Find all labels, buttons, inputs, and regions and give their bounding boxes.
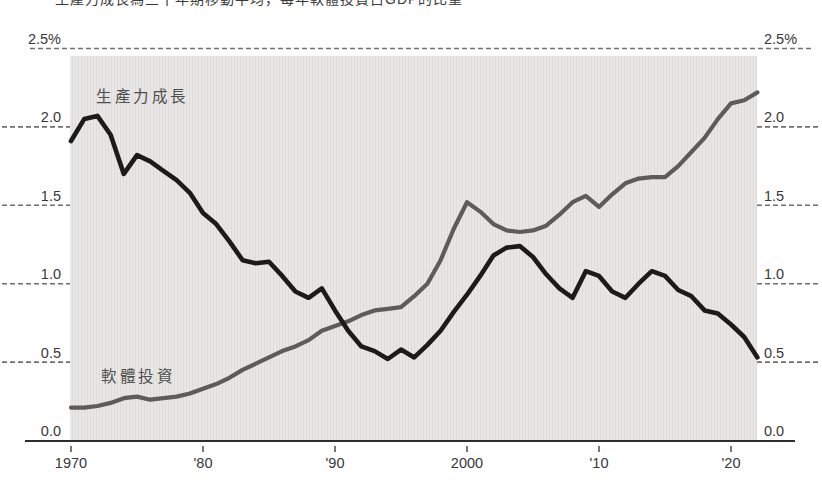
y-axis-label-right: 1.5 [764, 188, 814, 205]
y-axis-label-left: 1.0 [14, 266, 61, 283]
y-axis-label-left: 0.0 [14, 423, 61, 440]
y-axis-label-left: 2.5% [14, 31, 61, 48]
software-line-label: 軟體投資 [101, 364, 175, 386]
software-investment-line [71, 92, 757, 407]
x-axis-tick-marks [71, 446, 731, 452]
y-axis-label-right: 1.0 [764, 266, 814, 283]
x-axis-label: '10 [569, 455, 629, 471]
y-axis-label-left: 2.0 [14, 109, 61, 126]
y-axis-label-right: 2.5% [764, 31, 814, 48]
y-axis-label-right: 2.0 [764, 109, 814, 126]
y-axis-label-left: 0.5 [14, 345, 61, 362]
y-axis-label-right: 0.0 [764, 423, 814, 440]
x-axis-label: '80 [173, 455, 233, 471]
y-axis-label-right: 0.5 [764, 345, 814, 362]
x-axis-label: 1970 [41, 455, 101, 471]
productivity-growth-line [71, 116, 757, 359]
x-axis-line [25, 440, 795, 442]
x-axis-label: 2000 [437, 455, 497, 471]
x-axis-label: '90 [305, 455, 365, 471]
productivity-line-label: 生產力成長 [96, 84, 189, 106]
y-axis-label-left: 1.5 [14, 188, 61, 205]
chart-figure: 生產力成長為三十年期移動平均，每年軟體投資占GDP的比重 生產力成長 軟體投資 … [0, 0, 822, 503]
x-axis-label: '20 [701, 455, 761, 471]
chart-canvas [0, 0, 822, 503]
